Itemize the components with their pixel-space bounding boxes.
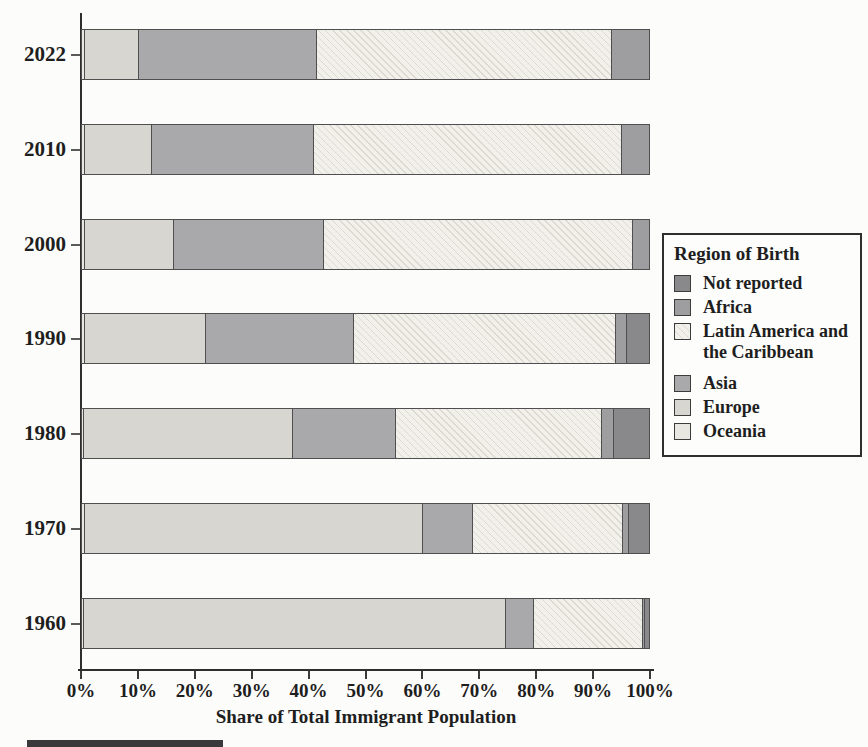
legend-swatch-latam	[674, 323, 691, 340]
x-tick-90%	[592, 671, 594, 679]
x-tick-50%	[365, 671, 367, 679]
x-tick-label-90%: 90%	[574, 680, 612, 702]
legend-item-africa: Africa	[674, 297, 852, 318]
bar-segment-2010-latam	[314, 125, 622, 174]
y-axis-tick-1990	[71, 338, 80, 340]
x-tick-label-70%: 70%	[460, 680, 498, 702]
x-tick-label-80%: 80%	[517, 680, 555, 702]
bar-segment-2000-latam	[324, 220, 633, 269]
scan-artifact-bar	[27, 740, 223, 747]
bar-segment-2000-asia	[174, 220, 324, 269]
y-axis-label-1980: 1980	[8, 423, 66, 444]
legend-swatch-europe	[674, 399, 691, 416]
legend-label-latam: Latin America and the Caribbean	[703, 321, 852, 363]
legend-label-asia: Asia	[703, 373, 737, 394]
bar-segment-1990-africa	[616, 314, 627, 363]
x-tick-label-40%: 40%	[290, 680, 328, 702]
bar-segment-1970-latam	[473, 504, 624, 553]
x-tick-label-20%: 20%	[176, 680, 214, 702]
y-axis-tick-2022	[71, 54, 80, 56]
legend-swatch-asia	[674, 375, 691, 392]
legend-label-not_reported: Not reported	[703, 273, 802, 294]
y-axis-tick-1980	[71, 433, 80, 435]
bar-segment-1990-not_reported	[627, 314, 649, 363]
y-axis-tick-1960	[71, 623, 80, 625]
bar-segment-1970-asia	[423, 504, 473, 553]
y-axis-label-2000: 2000	[8, 234, 66, 255]
bar-segment-1980-not_reported	[614, 409, 649, 458]
x-tick-10%	[137, 671, 139, 679]
bar-segment-2022-latam	[317, 30, 612, 79]
bar-segment-2010-europe	[85, 125, 152, 174]
y-axis-tick-2000	[71, 244, 80, 246]
bar-segment-1960-not_reported	[645, 599, 649, 648]
bar-segment-1990-europe	[85, 314, 206, 363]
x-tick-60%	[421, 671, 423, 679]
bar-segment-1980-asia	[293, 409, 396, 458]
x-axis-title: Share of Total Immigrant Population	[81, 706, 651, 728]
bar-segment-1990-latam	[354, 314, 617, 363]
legend-label-oceania: Oceania	[703, 421, 766, 442]
x-tick-80%	[535, 671, 537, 679]
bar-segment-2000-europe	[85, 220, 174, 269]
legend-box: Region of Birth Not reportedAfricaLatin …	[662, 233, 862, 457]
legend-swatch-africa	[674, 299, 691, 316]
stacked-bar-1970	[81, 503, 650, 554]
legend-item-not_reported: Not reported	[674, 273, 852, 294]
bar-segment-2022-europe	[85, 30, 139, 79]
legend-label-africa: Africa	[703, 297, 752, 318]
stacked-bar-1990	[81, 313, 650, 364]
x-tick-100%	[649, 671, 651, 679]
legend-title: Region of Birth	[674, 243, 852, 265]
bar-segment-1980-africa	[602, 409, 613, 458]
x-tick-label-10%: 10%	[119, 680, 157, 702]
x-tick-label-50%: 50%	[347, 680, 385, 702]
x-tick-40%	[308, 671, 310, 679]
bar-segment-2022-asia	[139, 30, 317, 79]
legend-label-europe: Europe	[703, 397, 760, 418]
bar-segment-2000-africa	[633, 220, 649, 269]
bar-segment-1980-europe	[84, 409, 293, 458]
stacked-bar-2022	[81, 29, 650, 80]
bar-segment-2010-africa	[622, 125, 649, 174]
y-axis-label-1960: 1960	[8, 613, 66, 634]
x-tick-label-100%: 100%	[626, 680, 674, 702]
legend-item-oceania: Oceania	[674, 421, 852, 442]
legend-items: Not reportedAfricaLatin America and the …	[674, 273, 852, 442]
bar-segment-1960-latam	[534, 599, 643, 648]
legend-swatch-not_reported	[674, 275, 691, 292]
y-axis-label-2010: 2010	[8, 139, 66, 160]
y-axis-label-2022: 2022	[8, 44, 66, 65]
legend-item-latam: Latin America and the Caribbean	[674, 321, 852, 363]
y-axis-tick-1970	[71, 528, 80, 530]
legend-swatch-oceania	[674, 423, 691, 440]
x-tick-label-30%: 30%	[233, 680, 271, 702]
stacked-bar-1980	[81, 408, 650, 459]
bar-segment-1970-europe	[85, 504, 423, 553]
x-tick-20%	[194, 671, 196, 679]
x-tick-30%	[251, 671, 253, 679]
y-axis-label-1970: 1970	[8, 518, 66, 539]
legend-item-europe: Europe	[674, 397, 852, 418]
bar-segment-2022-africa	[612, 30, 649, 79]
bar-segment-1960-asia	[506, 599, 534, 648]
stacked-bar-2000	[81, 219, 650, 270]
stacked-bar-1960	[81, 598, 650, 649]
legend-item-asia: Asia	[674, 373, 852, 394]
bar-segment-1980-latam	[396, 409, 602, 458]
x-tick-0%	[80, 671, 82, 679]
bar-segment-2010-asia	[152, 125, 315, 174]
y-axis-label-1990: 1990	[8, 328, 66, 349]
x-tick-label-0%: 0%	[67, 680, 96, 702]
y-axis-tick-2010	[71, 149, 80, 151]
bar-segment-1990-asia	[206, 314, 354, 363]
bar-segment-1970-not_reported	[629, 504, 649, 553]
bar-segment-1960-europe	[84, 599, 506, 648]
x-tick-label-60%: 60%	[403, 680, 441, 702]
stacked-bar-2010	[81, 124, 650, 175]
x-tick-70%	[478, 671, 480, 679]
